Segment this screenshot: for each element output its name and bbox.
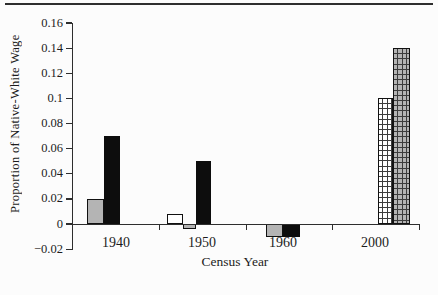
bar-1960-gray [266,224,283,237]
y-tick-−0.02 [66,249,72,250]
page-top-rule [5,3,433,5]
bar-2000-gray-grid [393,48,410,224]
y-tick-label-0.06: 0.06 [7,142,63,155]
y-axis-line [72,23,74,250]
bar-1950-white [167,214,183,224]
y-tick-0.06 [66,148,72,149]
y-tick-label-0.08: 0.08 [7,117,63,130]
y-tick-0.04 [66,173,72,174]
x-category-label-2000: 2000 [340,235,410,251]
y-tick-label-0.04: 0.04 [7,167,63,180]
y-tick-0.02 [66,198,72,199]
y-tick-0.16 [66,22,72,23]
bar-1960-black [283,224,300,237]
x-axis-zero-line [72,224,421,226]
x-tick-0 [159,225,160,231]
y-tick-label-−0.02: −0.02 [7,243,63,256]
x-category-label-1940: 1940 [81,235,151,251]
y-tick-0.14 [66,48,72,49]
y-tick-label-0.16: 0.16 [7,17,63,30]
x-tick-2 [332,225,333,231]
y-tick-label-0.14: 0.14 [7,42,63,55]
y-tick-0.1 [66,98,72,99]
figure: Proportion of Native-White Wage Census Y… [0,0,438,295]
bar-1940-black [104,136,120,224]
x-tick-3 [419,225,420,231]
x-axis-title: Census Year [170,254,300,270]
y-tick-label-0.02: 0.02 [7,192,63,205]
x-category-label-1960: 1960 [248,235,318,251]
y-tick-0.12 [66,73,72,74]
x-tick-1 [246,225,247,231]
x-category-label-1950: 1950 [167,235,237,251]
bar-2000-white-grid [378,98,393,224]
y-tick-label-0.12: 0.12 [7,67,63,80]
bar-1940-gray [87,199,104,224]
y-tick-0.08 [66,123,72,124]
bar-1950-black [196,161,211,224]
plot-area: Census Year 0.160.140.120.10.080.060.040… [73,23,420,250]
y-tick-label-0: 0 [7,218,63,231]
y-tick-label-0.1: 0.1 [7,92,63,105]
